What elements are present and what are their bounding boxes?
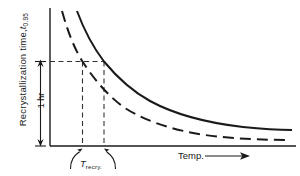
x-axis-title: Temp. bbox=[178, 151, 204, 161]
one-hour-label: 1 hr bbox=[37, 86, 46, 116]
trecry-subscript: recry. bbox=[86, 163, 102, 170]
dashed-curve bbox=[62, 11, 290, 140]
solid-curve bbox=[77, 11, 292, 130]
y-axis-title-text: Recrystallization time, bbox=[17, 29, 28, 126]
temperature-direction-arrow bbox=[205, 152, 250, 159]
recrystallization-temperature-label: Trecry. bbox=[80, 159, 102, 170]
y-axis-title-symbol: t bbox=[17, 26, 28, 29]
y-axis-title: Recrystallization time,t0.95 bbox=[18, 0, 29, 140]
recrystallization-time-vs-temperature-chart: Recrystallization time,t0.95 1 hr Temp. … bbox=[0, 0, 300, 176]
y-axis-title-subscript: 0.95 bbox=[22, 13, 29, 26]
